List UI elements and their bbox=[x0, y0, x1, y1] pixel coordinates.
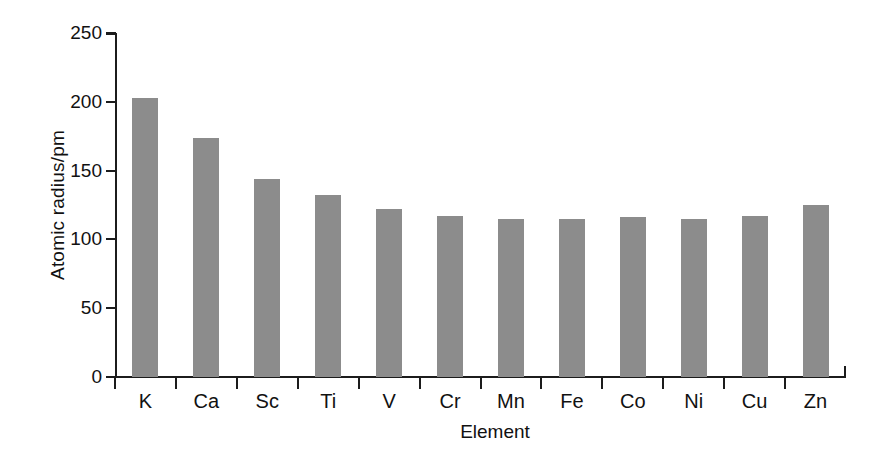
x-axis-label: K bbox=[115, 390, 175, 412]
x-axis-label: Fe bbox=[542, 390, 602, 412]
bar bbox=[559, 219, 585, 377]
x-axis-tick bbox=[419, 378, 421, 389]
y-axis-tick-label: 200 bbox=[42, 92, 102, 111]
bar bbox=[254, 179, 280, 377]
y-axis-title-container: Atomic radius/pm bbox=[16, 30, 44, 380]
x-axis-tick bbox=[175, 378, 177, 389]
y-axis-tick-label: 150 bbox=[42, 161, 102, 180]
x-axis-label: Ni bbox=[664, 390, 724, 412]
y-axis-tick-label-text: 200 bbox=[50, 92, 102, 111]
bar bbox=[315, 195, 341, 377]
x-axis-tick bbox=[297, 378, 299, 389]
x-axis-label: Zn bbox=[786, 390, 846, 412]
bar bbox=[376, 209, 402, 377]
x-axis-tick bbox=[540, 378, 542, 389]
bar bbox=[681, 219, 707, 377]
y-axis-tick-label: 250 bbox=[42, 23, 102, 42]
bar bbox=[193, 138, 219, 377]
x-axis-tick bbox=[358, 378, 360, 389]
y-axis-tick-label: 100 bbox=[42, 229, 102, 248]
x-axis-label: Cu bbox=[725, 390, 785, 412]
x-axis-label: Mn bbox=[481, 390, 541, 412]
bar bbox=[132, 98, 158, 377]
x-axis-tick bbox=[662, 378, 664, 389]
bar bbox=[498, 219, 524, 377]
x-axis-label: Ti bbox=[298, 390, 358, 412]
x-axis-label: Ca bbox=[176, 390, 236, 412]
x-axis-label: Sc bbox=[237, 390, 297, 412]
bar bbox=[742, 216, 768, 377]
x-axis-tick bbox=[723, 378, 725, 389]
x-axis-label: Co bbox=[603, 390, 663, 412]
x-axis-label: V bbox=[359, 390, 419, 412]
y-axis-title: Atomic radius/pm bbox=[44, 30, 72, 380]
x-axis-tick bbox=[601, 378, 603, 389]
x-axis-tick bbox=[114, 378, 116, 389]
x-axis-label: Cr bbox=[420, 390, 480, 412]
bar bbox=[437, 216, 463, 377]
x-axis-title: Element bbox=[0, 421, 880, 443]
y-axis-tick-label: 0 bbox=[42, 367, 102, 386]
x-axis-tick bbox=[236, 378, 238, 389]
y-axis-tick-label-text: 250 bbox=[50, 23, 102, 42]
y-axis-tick-label-text: 100 bbox=[50, 229, 102, 248]
x-axis-tick bbox=[480, 378, 482, 389]
y-axis-tick-label-text: 50 bbox=[50, 298, 102, 317]
y-axis-tick-label-text: 150 bbox=[50, 161, 102, 180]
bar-chart: Atomic radius/pm 050100150200250 KCaScTi… bbox=[0, 0, 880, 462]
bar bbox=[620, 217, 646, 377]
y-axis-tick-label-text: 0 bbox=[50, 367, 102, 386]
bar bbox=[803, 205, 829, 377]
bars-layer bbox=[115, 33, 846, 377]
x-axis-tick bbox=[784, 378, 786, 389]
y-axis-tick-label: 50 bbox=[42, 298, 102, 317]
